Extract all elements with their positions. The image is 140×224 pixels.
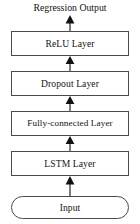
- node-lstm-layer-label: LSTM Layer: [44, 159, 95, 169]
- node-lstm-layer[interactable]: LSTM Layer: [11, 151, 129, 176]
- node-relu-layer[interactable]: ReLU Layer: [11, 31, 129, 56]
- arrow-lstm-to-fc: [64, 136, 76, 151]
- arrow-dropout-to-relu: [64, 56, 76, 71]
- node-input-label: Input: [60, 203, 80, 213]
- arrow-relu-to-output: [64, 15, 76, 31]
- arrow-input-to-lstm: [64, 176, 76, 196]
- node-input[interactable]: Input: [11, 196, 129, 219]
- node-dropout-layer-label: Dropout Layer: [41, 79, 99, 89]
- node-fully-connected-layer-label: Fully-connected Layer: [27, 119, 113, 128]
- network-architecture-diagram: Regression Output ReLU Layer Dropout Lay…: [0, 0, 140, 224]
- regression-output-label: Regression Output: [0, 3, 140, 13]
- node-fully-connected-layer[interactable]: Fully-connected Layer: [11, 111, 129, 136]
- node-relu-layer-label: ReLU Layer: [45, 39, 94, 49]
- arrow-fc-to-dropout: [64, 96, 76, 111]
- node-dropout-layer[interactable]: Dropout Layer: [11, 71, 129, 96]
